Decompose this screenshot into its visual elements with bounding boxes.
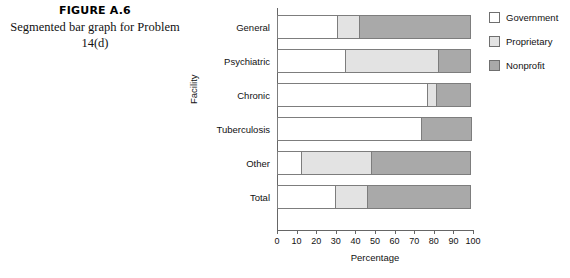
legend-item-nonprofit: Nonprofit [489, 60, 569, 71]
bar-track [277, 83, 473, 107]
x-axis-tick-label: 50 [370, 236, 380, 246]
bar-category-label: Other [246, 158, 270, 169]
figure-caption-text: Segmented bar graph for Problem 14(d) [0, 20, 190, 51]
legend-item-proprietary: Proprietary [489, 36, 569, 47]
y-axis-title: Facility [188, 74, 199, 104]
x-axis-tick [316, 230, 317, 234]
chart-legend: GovernmentProprietaryNonprofit [489, 12, 569, 84]
x-axis-tick [473, 230, 474, 234]
bar-segment-proprietary [345, 49, 439, 73]
bar-segment-government [277, 83, 428, 107]
x-axis-tick-label: 20 [311, 236, 321, 246]
x-axis-tick-label: 30 [331, 236, 341, 246]
bar-segment-nonprofit [438, 49, 471, 73]
plot-area: GeneralPsychiatricChronicTuberculosisOth… [277, 8, 473, 230]
legend-label: Nonprofit [506, 60, 545, 71]
x-axis-tick [375, 230, 376, 234]
x-axis-tick [395, 230, 396, 234]
bar-category-label: Chronic [237, 90, 270, 101]
figure-number: FIGURE A.6 [0, 4, 190, 17]
bar-segment-government [277, 185, 336, 209]
legend-swatch-proprietary [489, 36, 500, 47]
bar-segment-nonprofit [421, 117, 472, 141]
bar-segment-government [277, 15, 338, 39]
bar-track [277, 151, 473, 175]
bar-segment-government [277, 151, 302, 175]
x-axis-title: Percentage [351, 252, 400, 263]
bar-segment-nonprofit [359, 15, 471, 39]
bar-row: Psychiatric [277, 49, 473, 73]
legend-label: Proprietary [506, 36, 552, 47]
x-axis-tick [355, 230, 356, 234]
x-axis-tick [434, 230, 435, 234]
bar-track [277, 185, 473, 209]
bar-category-label: Total [250, 192, 270, 203]
bar-segment-proprietary [337, 15, 361, 39]
x-axis-tick-label: 80 [429, 236, 439, 246]
x-axis-tick [277, 230, 278, 234]
bar-category-label: Tuberculosis [216, 124, 270, 135]
x-axis-tick [336, 230, 337, 234]
legend-swatch-nonprofit [489, 60, 500, 71]
bar-row: Tuberculosis [277, 117, 473, 141]
bar-track [277, 117, 473, 141]
bar-row: Other [277, 151, 473, 175]
bar-segment-proprietary [335, 185, 368, 209]
x-axis-tick [453, 230, 454, 234]
legend-label: Government [506, 12, 558, 23]
segmented-bar-chart: Facility GeneralPsychiatricChronicTuberc… [196, 8, 496, 270]
legend-item-government: Government [489, 12, 569, 23]
bar-segment-government [277, 49, 346, 73]
bar-segment-government [277, 117, 422, 141]
x-axis-tick-label: 60 [390, 236, 400, 246]
bar-category-label: Psychiatric [224, 56, 270, 67]
x-axis-tick [414, 230, 415, 234]
bar-category-label: General [236, 22, 270, 33]
bar-track [277, 49, 473, 73]
bar-row: Total [277, 185, 473, 209]
x-axis-tick-label: 70 [409, 236, 419, 246]
bar-segment-nonprofit [436, 83, 471, 107]
figure-caption-block: FIGURE A.6 Segmented bar graph for Probl… [0, 4, 190, 51]
x-axis-tick [297, 230, 298, 234]
bar-row: General [277, 15, 473, 39]
x-axis-tick-label: 100 [465, 236, 480, 246]
bar-row: Chronic [277, 83, 473, 107]
x-axis-tick-label: 90 [448, 236, 458, 246]
x-axis-tick-label: 10 [292, 236, 302, 246]
legend-swatch-government [489, 12, 500, 23]
bar-segment-proprietary [301, 151, 372, 175]
x-axis-tick-label: 0 [274, 236, 279, 246]
x-axis-tick-label: 40 [350, 236, 360, 246]
bar-segment-nonprofit [371, 151, 471, 175]
bar-track [277, 15, 473, 39]
bar-segment-nonprofit [367, 185, 471, 209]
